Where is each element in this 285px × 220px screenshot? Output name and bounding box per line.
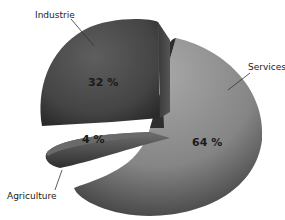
value-services: 64 % xyxy=(192,136,222,149)
value-industrie: 32 % xyxy=(88,76,118,89)
leader-line-agriculture xyxy=(55,170,62,190)
value-agriculture: 4 % xyxy=(82,133,105,146)
label-agriculture: Agriculture xyxy=(7,191,57,201)
slice-industrie xyxy=(41,19,170,126)
label-services: Services xyxy=(248,62,285,72)
label-industrie: Industrie xyxy=(35,10,75,20)
pie-chart xyxy=(0,0,285,220)
